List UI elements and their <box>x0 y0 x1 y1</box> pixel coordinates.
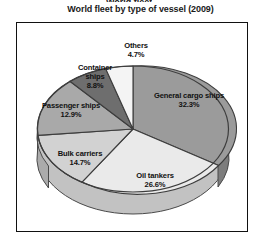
slice-label-container-ships-name-1: Container <box>78 63 112 72</box>
slice-label-oil-tankers-pct: 26.6% <box>109 180 201 189</box>
slice-label-general-cargo-ships: General cargo ships 32.3% <box>137 91 241 109</box>
slice-label-general-cargo-ships-pct: 32.3% <box>137 100 241 109</box>
slice-label-container-ships-name-2: ships <box>85 72 104 81</box>
clipped-title-line: World fleet by <box>106 0 152 2</box>
title-area: World fleet by World fleet by type of ve… <box>0 0 259 22</box>
plot-frame: Others 4.7% Container ships 8.8% Passeng… <box>16 22 248 232</box>
slice-label-others-pct: 4.7% <box>109 50 163 59</box>
slice-label-bulk-carriers: Bulk carriers 14.7% <box>35 149 125 167</box>
slice-label-general-cargo-ships-name: General cargo ships <box>154 91 224 100</box>
slice-label-others-name: Others <box>124 41 148 50</box>
chart-title: World fleet by type of vessel (2009) <box>0 4 259 14</box>
slice-label-others: Others 4.7% <box>109 41 163 59</box>
slice-label-passenger-ships: Passenger ships 12.9% <box>23 101 119 119</box>
slice-label-bulk-carriers-name: Bulk carriers <box>58 149 102 158</box>
slice-label-bulk-carriers-pct: 14.7% <box>35 158 125 167</box>
slice-label-oil-tankers-name: Oil tankers <box>136 171 174 180</box>
pie-chart-figure: World fleet by World fleet by type of ve… <box>0 0 259 247</box>
slice-label-container-ships-pct: 8.8% <box>65 81 125 90</box>
slice-label-oil-tankers: Oil tankers 26.6% <box>109 171 201 189</box>
slice-label-passenger-ships-name: Passenger ships <box>42 101 100 110</box>
slice-label-container-ships: Container ships 8.8% <box>65 63 125 91</box>
pie-stage: Others 4.7% Container ships 8.8% Passeng… <box>17 23 247 231</box>
slice-label-passenger-ships-pct: 12.9% <box>23 110 119 119</box>
